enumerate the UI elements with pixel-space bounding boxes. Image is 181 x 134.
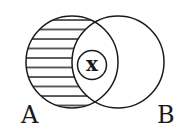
set-a-label: A — [21, 102, 38, 128]
set-b-label: B — [157, 102, 175, 128]
a-minus-b-hatched-region — [20, 15, 130, 115]
element-x-label: x — [83, 52, 101, 76]
